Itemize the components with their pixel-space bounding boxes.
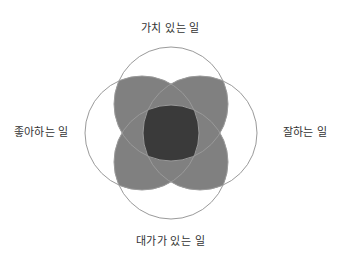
venn-diagram: 가치 있는 일 잘하는 일 대가가 있는 일 좋아하는 일 — [0, 0, 341, 265]
venn-label-top: 가치 있는 일 — [0, 22, 341, 35]
venn-label-left: 좋아하는 일 — [14, 126, 69, 139]
venn-label-right: 잘하는 일 — [283, 126, 328, 139]
venn-label-bottom: 대가가 있는 일 — [0, 235, 341, 248]
